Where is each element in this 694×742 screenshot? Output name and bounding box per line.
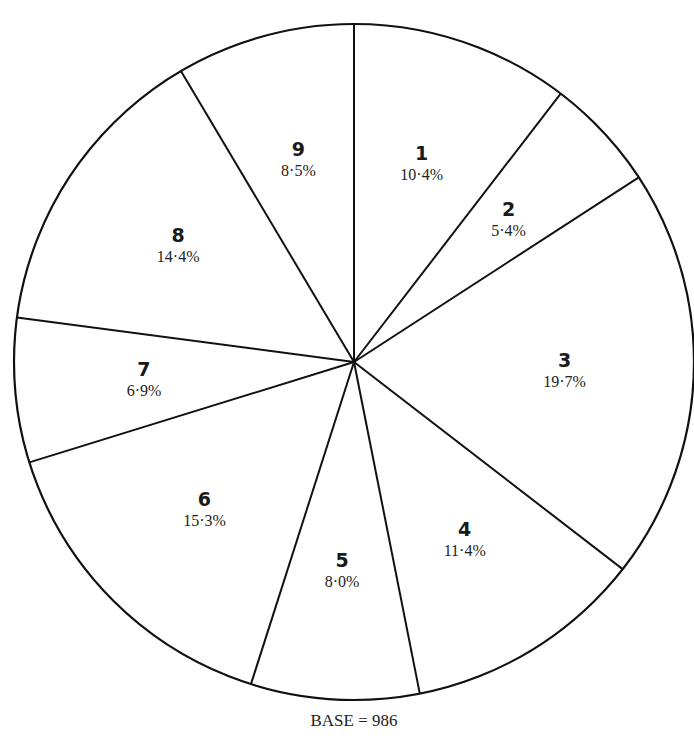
slice-number: 1 xyxy=(415,142,428,164)
pie-chart: 110·4%25·4%319·7%411·4%58·0%615·3%76·9%8… xyxy=(0,0,694,742)
slice-percentage: 14·4% xyxy=(157,248,200,265)
slice-percentage: 19·7% xyxy=(543,373,586,390)
base-footnote: BASE = 986 xyxy=(310,711,397,730)
slice-number: 4 xyxy=(458,518,471,540)
pie-slices xyxy=(14,24,694,700)
slice-percentage: 5·4% xyxy=(491,222,526,239)
slice-number: 8 xyxy=(172,224,185,246)
slice-number: 2 xyxy=(502,198,515,220)
slice-percentage: 11·4% xyxy=(444,542,486,559)
slice-number: 7 xyxy=(137,358,150,380)
slice-number: 9 xyxy=(292,138,305,160)
slice-number: 3 xyxy=(558,349,571,371)
slice-percentage: 15·3% xyxy=(183,512,226,529)
slice-percentage: 10·4% xyxy=(400,166,443,183)
slice-number: 6 xyxy=(198,488,211,510)
slice-percentage: 6·9% xyxy=(127,382,162,399)
slice-percentage: 8·5% xyxy=(281,162,316,179)
slice-number: 5 xyxy=(335,549,348,571)
slice-percentage: 8·0% xyxy=(325,573,360,590)
